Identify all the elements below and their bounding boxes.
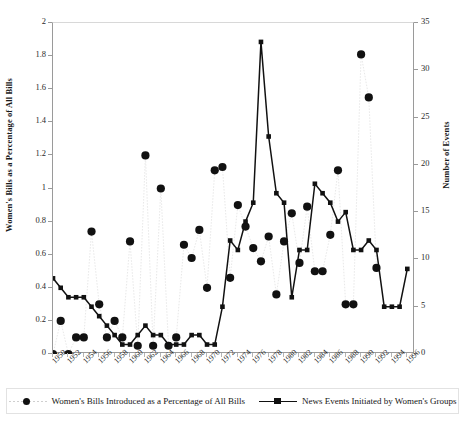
- x-axis-tick-mark: [52, 353, 53, 357]
- y-axis-left-tick-label: 1: [16, 182, 46, 192]
- y-axis-right-title: Number of Events: [441, 50, 451, 260]
- x-axis-tick-mark: [329, 353, 330, 357]
- news-events-markers: [53, 40, 410, 347]
- x-axis-tick-mark: [206, 353, 207, 357]
- news-events-line: [53, 42, 407, 345]
- y-axis-left-tick-label: 0.6: [16, 248, 46, 258]
- dotted-circle-marker-icon: [9, 397, 47, 406]
- x-axis-tick-mark: [345, 353, 346, 357]
- x-axis-tick-mark: [144, 353, 145, 357]
- y-axis-left-tick-label: 1.6: [16, 82, 46, 92]
- y-axis-left-tick-label: 0: [16, 347, 46, 357]
- legend-label-womens-bills: Women's Bills Introduced as a Percentage…: [52, 396, 245, 406]
- x-axis-tick-mark: [314, 353, 315, 357]
- x-axis-tick-mark: [160, 353, 161, 357]
- x-axis-tick-mark: [67, 353, 68, 357]
- chart-page: 00.20.40.60.811.21.41.61.82 051015202530…: [0, 0, 465, 423]
- x-axis-tick-mark: [221, 353, 222, 357]
- chart-legend: Women's Bills Introduced as a Percentage…: [6, 388, 459, 414]
- x-axis-tick-mark: [114, 353, 115, 357]
- y-axis-right-tick-mark: [414, 258, 418, 259]
- x-axis-tick-mark: [360, 353, 361, 357]
- chart-svg: [53, 23, 415, 354]
- x-axis-tick-mark: [175, 353, 176, 357]
- x-axis-tick-mark: [191, 353, 192, 357]
- y-axis-left-tick-mark: [48, 22, 52, 23]
- y-axis-left-tick-label: 0.4: [16, 281, 46, 291]
- womens-bills-dotted-line: [53, 54, 376, 354]
- y-axis-left-tick-mark: [48, 320, 52, 321]
- y-axis-left-tick-mark: [48, 287, 52, 288]
- y-axis-right-tick-mark: [414, 117, 418, 118]
- y-axis-left-tick-label: 0.8: [16, 215, 46, 225]
- solid-square-marker-icon: [259, 397, 297, 406]
- y-axis-right-tick-mark: [414, 211, 418, 212]
- x-axis-tick-mark: [237, 353, 238, 357]
- y-axis-left-tick-mark: [48, 254, 52, 255]
- y-axis-left-tick-label: 0.2: [16, 314, 46, 324]
- y-axis-left-tick-mark: [48, 88, 52, 89]
- y-axis-right-tick-mark: [414, 306, 418, 307]
- x-axis-tick-mark: [375, 353, 376, 357]
- y-axis-left-tick-label: 1.2: [16, 148, 46, 158]
- y-axis-left-title: Women's Bills as a Percentage of All Bil…: [4, 50, 14, 260]
- y-axis-left-tick-mark: [48, 154, 52, 155]
- y-axis-left-tick-mark: [48, 121, 52, 122]
- legend-label-news-events: News Events Initiated by Women's Groups: [302, 396, 456, 406]
- y-axis-left-tick-label: 1.4: [16, 115, 46, 125]
- legend-item-womens-bills[interactable]: Women's Bills Introduced as a Percentage…: [9, 396, 245, 406]
- y-axis-left-tick-mark: [48, 55, 52, 56]
- x-axis-tick-mark: [298, 353, 299, 357]
- y-axis-right-tick-label: 5: [421, 300, 451, 310]
- y-axis-right-tick-label: 35: [421, 16, 451, 26]
- y-axis-left-tick-mark: [48, 188, 52, 189]
- y-axis-right-tick-mark: [414, 164, 418, 165]
- x-axis-tick-mark: [391, 353, 392, 357]
- y-axis-left-tick-label: 2: [16, 16, 46, 26]
- y-axis-right-tick-mark: [414, 22, 418, 23]
- x-axis-tick-mark: [268, 353, 269, 357]
- legend-item-news-events[interactable]: News Events Initiated by Women's Groups: [259, 396, 456, 406]
- y-axis-right-tick-mark: [414, 69, 418, 70]
- x-axis-tick-mark: [98, 353, 99, 357]
- x-axis-tick-mark: [129, 353, 130, 357]
- y-axis-left-tick-label: 1.8: [16, 49, 46, 59]
- y-axis-left-tick-mark: [48, 221, 52, 222]
- x-axis-tick-mark: [283, 353, 284, 357]
- x-axis-tick-mark: [83, 353, 84, 357]
- y-axis-right-tick-label: 0: [421, 347, 451, 357]
- x-axis-tick-mark: [406, 353, 407, 357]
- x-axis-tick-mark: [252, 353, 253, 357]
- plot-area: [52, 22, 414, 353]
